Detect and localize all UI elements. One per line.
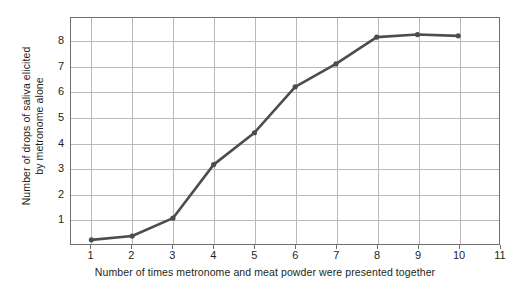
data-point-marker [333,61,338,66]
y-axis-tick-label: 2 [40,188,64,200]
y-axis-tick-label: 8 [40,34,64,46]
data-point-marker [415,32,420,37]
data-series-saliva [71,18,499,245]
y-axis-tick-label: 3 [40,162,64,174]
chart-figure: Number of drops of saliva elicited by me… [0,0,530,293]
x-axis-tick-label: 3 [159,249,185,261]
y-axis-tick-label: 7 [40,60,64,72]
x-axis-tick-label: 10 [446,249,472,261]
x-axis-tick-mark [254,245,255,249]
data-point-marker [130,233,135,238]
x-axis-tick-mark [295,245,296,249]
x-axis-tick-label: 1 [77,249,103,261]
x-axis-tick-label: 6 [282,249,308,261]
x-axis-tick-label: 7 [323,249,349,261]
x-axis-tick-mark [172,245,173,249]
x-axis-tick-label: 4 [200,249,226,261]
data-point-marker [456,33,461,38]
series-line [91,35,458,240]
x-axis-tick-mark [213,245,214,249]
x-axis-tick-mark [377,245,378,249]
x-axis-tick-label: 11 [487,249,513,261]
data-point-marker [293,84,298,89]
x-axis-tick-mark [131,245,132,249]
x-axis-tick-label: 5 [241,249,267,261]
y-axis-tick-label: 1 [40,213,64,225]
x-axis-tick-label: 8 [364,249,390,261]
x-axis-tick-mark [500,245,501,249]
x-axis-tick-mark [90,245,91,249]
y-axis-title-line1: Number of drops of saliva elicited [20,47,33,206]
y-axis-tick-label: 6 [40,85,64,97]
x-axis-tick-label: 9 [405,249,431,261]
data-point-marker [211,162,216,167]
plot-area [70,17,500,245]
x-axis-tick-mark [336,245,337,249]
x-axis-title: Number of times metronome and meat powde… [0,266,530,278]
y-axis-tick-label: 4 [40,137,64,149]
data-point-marker [89,237,94,242]
data-point-marker [252,130,257,135]
data-point-marker [170,216,175,221]
x-axis-tick-mark [418,245,419,249]
data-point-marker [374,35,379,40]
y-axis-tick-label: 5 [40,111,64,123]
x-axis-tick-label: 2 [118,249,144,261]
x-axis-tick-mark [459,245,460,249]
